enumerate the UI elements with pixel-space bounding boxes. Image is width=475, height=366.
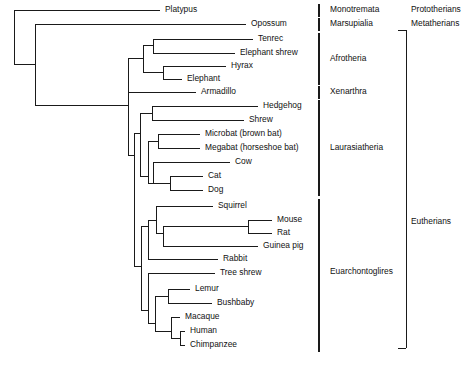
leaf-label-18: Rabbit [223,253,248,263]
leaf-label-6: Armadillo [201,86,236,96]
clade-label-0: Monotremata [330,4,380,14]
leaf-label-11: Cow [235,156,253,166]
clade-label-3: Xenarthra [330,86,367,96]
leaf-label-13: Dog [208,184,224,194]
leaf-label-8: Shrew [249,114,274,124]
leaf-label-2: Tenrec [258,33,283,43]
leaf-label-23: Human [190,325,217,335]
eutherians-bracket [398,30,406,348]
phylogenetic-tree-figure: PlatypusOpossumTenrecElephant shrewHyrax… [0,0,475,366]
clade-label-4: Laurasiatheria [330,142,383,152]
clade-label-1: Marsupialia [330,18,373,28]
leaf-label-5: Elephant [187,73,221,83]
leaf-label-4: Hyrax [231,60,254,70]
leaf-label-3: Elephant shrew [240,47,299,57]
group-label-1: Metatherians [411,18,459,28]
leaf-label-20: Lemur [195,283,219,293]
leaf-label-10: Megabat (horseshoe bat) [205,142,299,152]
leaf-label-19: Tree shrew [220,267,263,277]
group-label-group: PrototheriansMetatheriansEutherians [411,4,461,226]
leaf-label-group: PlatypusOpossumTenrecElephant shrewHyrax… [165,4,304,349]
leaf-label-1: Opossum [251,18,287,28]
group-label-2: Eutherians [411,216,451,226]
leaf-label-0: Platypus [165,4,197,14]
clade-label-5: Euarchontoglires [330,266,393,276]
leaf-label-21: Bushbaby [217,297,255,307]
group-label-0: Prototherians [411,4,461,14]
clade-label-group: MonotremataMarsupialiaAfrotheriaXenarthr… [330,4,393,276]
leaf-label-17: Guinea pig [263,240,304,250]
leaf-label-14: Squirrel [218,200,247,210]
leaf-label-16: Rat [277,227,291,237]
leaf-label-12: Cat [208,170,222,180]
leaf-label-9: Microbat (brown bat) [205,128,282,138]
leaf-label-22: Macaque [185,311,220,321]
leaf-label-24: Chimpanzee [190,339,237,349]
clade-label-2: Afrotheria [330,53,367,63]
leaf-label-15: Mouse [277,214,302,224]
tree-canvas: PlatypusOpossumTenrecElephant shrewHyrax… [0,0,475,366]
leaf-label-7: Hedgehog [263,100,302,110]
